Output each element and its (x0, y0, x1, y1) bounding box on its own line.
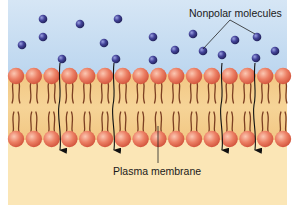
phospholipid-head (61, 68, 77, 84)
nonpolar-molecule (76, 20, 85, 29)
nonpolar-molecule (18, 41, 27, 50)
phospholipid-head (204, 131, 220, 147)
phospholipid-head (221, 131, 237, 147)
nonpolar-molecule (189, 30, 198, 39)
nonpolar-molecule (231, 36, 240, 45)
plasma-membrane-label: Plasma membrane (113, 166, 201, 177)
nonpolar-molecule (100, 39, 109, 48)
phospholipid-head (8, 68, 24, 84)
phospholipid-head (168, 68, 184, 84)
phospholipid-head (239, 68, 255, 84)
nonpolar-molecule (39, 33, 48, 42)
nonpolar-molecule (171, 46, 180, 55)
phospholipid-head (168, 131, 184, 147)
phospholipid-head (79, 131, 95, 147)
nonpolar-molecules-label: Nonpolar molecules (189, 8, 282, 19)
nonpolar-molecule (112, 55, 121, 64)
phospholipid-head (257, 68, 273, 84)
phospholipid-head (132, 131, 148, 147)
phospholipid-head (132, 68, 148, 84)
phospholipid-head (115, 131, 131, 147)
phospholipid-head (79, 68, 95, 84)
phospholipid-head (8, 131, 24, 147)
nonpolar-molecule (149, 56, 158, 65)
plasma-membrane-diagram (0, 0, 293, 210)
nonpolar-molecule (199, 47, 208, 56)
nonpolar-molecule (218, 51, 227, 60)
phospholipid-head (97, 131, 113, 147)
phospholipid-head (26, 68, 42, 84)
nonpolar-molecule (252, 54, 261, 63)
nonpolar-molecule (39, 15, 48, 24)
phospholipid-head (43, 131, 59, 147)
phospholipid-head (186, 131, 202, 147)
phospholipid-head (97, 68, 113, 84)
nonpolar-molecule (149, 33, 158, 42)
phospholipid-head (204, 68, 220, 84)
phospholipid-head (26, 131, 42, 147)
phospholipid-head (150, 68, 166, 84)
nonpolar-molecule (253, 33, 262, 42)
phospholipid-head (275, 68, 291, 84)
phospholipid-head (115, 68, 131, 84)
phospholipid-head (275, 131, 291, 147)
nonpolar-molecule (58, 55, 67, 64)
phospholipid-head (186, 68, 202, 84)
nonpolar-molecule (271, 47, 280, 56)
phospholipid-head (43, 68, 59, 84)
phospholipid-head (239, 131, 255, 147)
phospholipid-head (257, 131, 273, 147)
nonpolar-molecule (114, 15, 123, 24)
phospholipid-head (61, 131, 77, 147)
phospholipid-head (221, 68, 237, 84)
